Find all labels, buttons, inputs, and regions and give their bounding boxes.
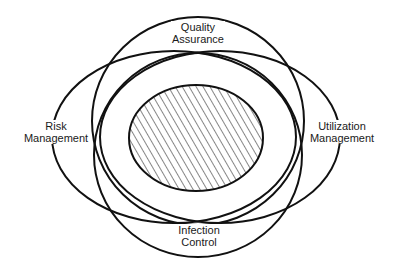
label-quality-assurance-line1: Quality <box>172 21 224 33</box>
label-infection-control: Infection Control <box>177 224 221 248</box>
label-quality-assurance: Quality Assurance <box>171 21 225 45</box>
label-utilization-management-line2: Management <box>310 132 374 144</box>
label-infection-control-line1: Infection <box>178 224 220 236</box>
label-utilization-management: Utilization Management <box>309 120 375 144</box>
label-infection-control-line2: Control <box>178 236 220 248</box>
label-risk-management: Risk Management <box>23 120 89 144</box>
label-utilization-management-line1: Utilization <box>310 120 374 132</box>
center-hatched-ellipse <box>129 85 263 191</box>
label-quality-assurance-line2: Assurance <box>172 33 224 45</box>
label-risk-management-line2: Management <box>24 132 88 144</box>
label-risk-management-line1: Risk <box>24 120 88 132</box>
